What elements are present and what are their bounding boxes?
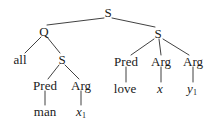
tree-node-arg-right-2: Arg (183, 55, 203, 68)
tree-node-arg-left: Arg (71, 79, 91, 92)
tree-node-pred-right: Pred (114, 55, 138, 68)
tree-node-q-left: Q (39, 25, 48, 38)
tree-node-arg-right-1: Arg (151, 55, 171, 68)
tree-edge-s-root-to-q-left (47, 18, 104, 25)
tree-node-love: love (114, 82, 136, 95)
tree-node-var-x: x (157, 82, 163, 95)
tree-node-all-left: all (14, 53, 27, 66)
tree-node-pred-left: Pred (33, 79, 57, 92)
tree-node-s-right: S (154, 27, 161, 40)
tree-node-var-x1: x1 (76, 105, 86, 118)
syntax-tree-figure: SQSallSPredArgArgPredArglovexy1manx1 (0, 0, 213, 123)
tree-node-var-x1-subscript: 1 (82, 111, 86, 120)
tree-node-s-inner: S (58, 53, 65, 66)
tree-node-man: man (34, 105, 56, 118)
tree-node-s-root: S (104, 6, 111, 19)
tree-node-var-y1-subscript: 1 (193, 88, 197, 97)
tree-node-var-x1-base: x (76, 104, 82, 119)
tree-edge-q-left-to-all-left (25, 37, 41, 53)
tree-edge-s-root-to-s-right (112, 18, 155, 27)
tree-node-var-y1-base: y (187, 81, 193, 96)
tree-node-var-y1: y1 (187, 82, 197, 95)
